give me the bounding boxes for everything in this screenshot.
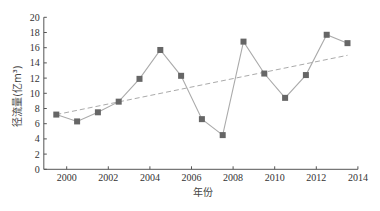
y-tick-label: 12 xyxy=(30,73,40,84)
x-tick-label: 2002 xyxy=(98,172,118,183)
x-tick-label: 2008 xyxy=(223,172,243,183)
square-marker-icon xyxy=(95,109,101,115)
y-tick-label: 8 xyxy=(35,103,40,114)
square-marker-icon xyxy=(53,112,59,118)
x-tick-label: 2010 xyxy=(265,172,285,183)
square-marker-icon xyxy=(345,40,351,46)
square-marker-icon xyxy=(220,132,226,138)
square-marker-icon xyxy=(199,116,205,122)
runoff-line-chart: 0246810121416182020002002200420062008201… xyxy=(0,0,380,211)
y-tick-label: 4 xyxy=(35,133,40,144)
square-marker-icon xyxy=(74,118,80,124)
x-tick-label: 2014 xyxy=(348,172,368,183)
square-marker-icon xyxy=(241,39,247,45)
y-axis-title: 径流量(亿m³) xyxy=(11,65,23,127)
square-marker-icon xyxy=(178,73,184,79)
square-marker-icon xyxy=(282,95,288,101)
y-tick-label: 0 xyxy=(35,164,40,175)
y-tick-label: 2 xyxy=(35,149,40,160)
trend-line xyxy=(56,55,347,114)
square-marker-icon xyxy=(116,99,122,105)
y-tick-label: 10 xyxy=(30,88,40,99)
x-tick-label: 2000 xyxy=(57,172,77,183)
axes: 0246810121416182020002002200420062008201… xyxy=(30,12,368,184)
x-tick-label: 2004 xyxy=(140,172,160,183)
trend-line-path xyxy=(56,55,347,114)
y-tick-label: 6 xyxy=(35,118,40,129)
y-tick-label: 18 xyxy=(30,27,40,38)
square-marker-icon xyxy=(137,76,143,82)
y-tick-label: 14 xyxy=(30,57,40,68)
square-marker-icon xyxy=(324,32,330,38)
y-tick-label: 16 xyxy=(30,42,40,53)
square-marker-icon xyxy=(157,47,163,53)
x-axis-title: 年份 xyxy=(193,186,213,198)
y-tick-label: 20 xyxy=(30,12,40,23)
square-marker-icon xyxy=(261,71,267,77)
x-tick-label: 2012 xyxy=(306,172,326,183)
x-tick-label: 2006 xyxy=(182,172,202,183)
square-marker-icon xyxy=(303,72,309,78)
